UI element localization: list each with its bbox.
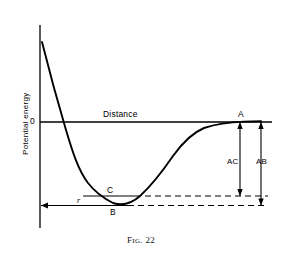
distance-r-label: r xyxy=(77,197,80,205)
point-b-label: B xyxy=(110,208,116,217)
ab-arrowhead-bottom xyxy=(258,199,263,206)
figure-canvas xyxy=(0,0,282,257)
potential-energy-curve xyxy=(42,42,261,204)
figure-caption: FIG. 22 xyxy=(0,235,282,245)
y-axis-zero-tick-label: 0 xyxy=(30,117,35,126)
point-c-label: C xyxy=(107,186,113,195)
segment-ab-label: AB xyxy=(256,158,267,166)
ac-arrowhead-bottom xyxy=(237,189,242,196)
segment-ac-label: AC xyxy=(227,158,239,166)
point-a-label: A xyxy=(238,110,244,119)
x-axis-label: Distance xyxy=(103,110,138,119)
ac-arrowhead-top xyxy=(237,122,242,129)
r-arrowhead-left xyxy=(41,203,48,209)
figure-caption-number: . 22 xyxy=(140,235,155,245)
y-axis-label: Potential energy xyxy=(22,92,30,155)
ab-arrowhead-top xyxy=(258,122,263,129)
potential-energy-figure: Potential energy 0 Distance A C B r AC A… xyxy=(0,0,282,257)
